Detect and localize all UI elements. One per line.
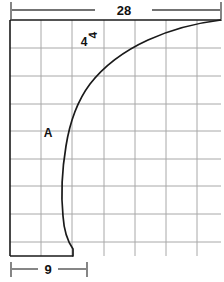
region-label-a: A <box>44 126 53 140</box>
top-dimension-label: 28 <box>117 3 131 18</box>
grid-label-rotated-4: 4 <box>86 31 101 39</box>
drawing-svg: 28 9 A 4 4 <box>0 0 224 282</box>
bottom-dimension: 9 <box>11 262 87 277</box>
technical-drawing-canvas: 28 9 A 4 4 <box>0 0 224 282</box>
grid-horizontal-lines <box>10 48 221 242</box>
top-dimension: 28 <box>11 2 221 19</box>
grid-vertical-lines <box>41 20 197 256</box>
outer-frame <box>10 20 221 256</box>
bottom-dimension-label: 9 <box>44 262 51 277</box>
